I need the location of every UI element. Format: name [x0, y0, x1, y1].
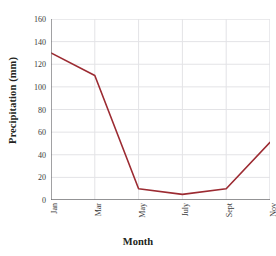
y-tick-label: 80 — [38, 105, 46, 114]
y-tick-label: 60 — [38, 128, 46, 137]
x-tick-label: Sept — [226, 201, 234, 215]
plot-svg — [51, 19, 270, 200]
plot-area — [51, 19, 270, 200]
x-tick-label: Nov — [270, 201, 276, 215]
y-tick-label: 100 — [34, 82, 46, 91]
y-axis-tick-labels: 020406080100120140160 — [22, 0, 48, 256]
y-axis-title-text: Precipitation (mm) — [8, 56, 19, 143]
precipitation-line-chart: Precipitation (mm) 020406080100120140160… — [0, 0, 276, 256]
precipitation-line-series — [51, 53, 270, 194]
y-tick-label: 40 — [38, 150, 46, 159]
y-tick-label: 140 — [34, 37, 46, 46]
x-tick-label: July — [182, 201, 190, 214]
y-axis-title: Precipitation (mm) — [2, 0, 24, 200]
x-axis-title: Month — [0, 236, 276, 247]
y-tick-label: 20 — [38, 173, 46, 182]
x-tick-label: Mar — [95, 201, 103, 214]
horizontal-gridlines — [51, 19, 270, 177]
y-tick-label: 0 — [42, 196, 46, 205]
x-axis-title-text: Month — [123, 236, 153, 247]
y-tick-label: 120 — [34, 60, 46, 69]
x-tick-label: May — [139, 201, 147, 216]
y-tick-label: 160 — [34, 15, 46, 24]
x-axis-tick-labels: JanMarMayJulySeptNov — [51, 201, 270, 237]
x-tick-label: Jan — [51, 201, 59, 212]
